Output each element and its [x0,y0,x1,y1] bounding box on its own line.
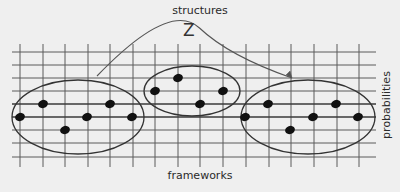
arc-label: Z [183,20,195,40]
data-point [149,86,161,97]
data-point [172,73,184,84]
diagram-canvas: structures Z frameworks probabilities [0,0,400,192]
data-point [262,99,274,110]
data-point [14,112,26,123]
data-point [217,86,229,97]
data-point [81,112,93,123]
right-axis-label: probabilities [380,71,393,139]
data-point [126,112,138,123]
bottom-label: frameworks [0,169,400,182]
top-label: structures [0,4,400,17]
diagram-svg [0,0,400,192]
data-point [37,99,49,110]
data-point [307,112,319,123]
data-point [194,99,206,110]
data-point [352,112,364,123]
data-point [284,125,296,136]
data-point [330,99,342,110]
data-point [104,99,116,110]
data-point [59,125,71,136]
